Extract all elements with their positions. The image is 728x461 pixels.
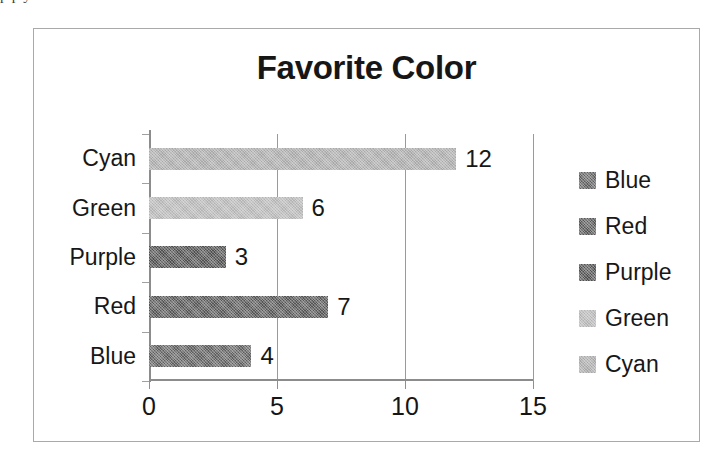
x-tick-mark-0	[149, 381, 150, 389]
chart-legend: BlueRedPurpleGreenCyan	[579, 157, 699, 387]
category-label-blue: Blue	[16, 343, 136, 370]
bar-value-label-green: 6	[312, 194, 325, 222]
legend-item-purple[interactable]: Purple	[579, 249, 699, 295]
x-tick-mark-10	[405, 381, 406, 389]
y-tick-4	[142, 332, 149, 333]
bar-value-label-blue: 4	[260, 342, 273, 370]
bar-row-blue: Blue4	[149, 332, 533, 381]
legend-label-red: Red	[605, 213, 647, 240]
x-tick-label-10: 10	[391, 392, 419, 421]
bar-cyan[interactable]: 12	[149, 148, 456, 170]
x-tick-label-0: 0	[142, 392, 156, 421]
plot-area: Cyan12Green6Purple3Red7Blue4 051015	[149, 134, 533, 381]
y-tick-3	[142, 282, 149, 283]
x-tick-label-15: 15	[519, 392, 547, 421]
x-tick-label-5: 5	[270, 392, 284, 421]
legend-label-cyan: Cyan	[605, 351, 659, 378]
y-tick-5	[142, 381, 149, 382]
legend-item-red[interactable]: Red	[579, 203, 699, 249]
legend-item-cyan[interactable]: Cyan	[579, 341, 699, 387]
legend-label-blue: Blue	[605, 167, 651, 194]
bar-purple[interactable]: 3	[149, 246, 226, 268]
bar-value-label-purple: 3	[235, 243, 248, 271]
bar-row-cyan: Cyan12	[149, 134, 533, 183]
bar-row-red: Red7	[149, 282, 533, 331]
x-tick-mark-5	[277, 381, 278, 389]
bar-green[interactable]: 6	[149, 197, 303, 219]
legend-label-green: Green	[605, 305, 669, 332]
category-label-cyan: Cyan	[16, 145, 136, 172]
x-tick-mark-15	[533, 381, 534, 389]
legend-item-green[interactable]: Green	[579, 295, 699, 341]
bar-red[interactable]: 7	[149, 296, 328, 318]
legend-swatch-green	[579, 310, 596, 327]
y-tick-0	[142, 134, 149, 135]
category-label-green: Green	[16, 195, 136, 222]
y-tick-1	[142, 183, 149, 184]
legend-swatch-red	[579, 218, 596, 235]
bar-row-green: Green6	[149, 183, 533, 232]
category-label-purple: Purple	[16, 244, 136, 271]
bar-row-purple: Purple3	[149, 233, 533, 282]
legend-item-blue[interactable]: Blue	[579, 157, 699, 203]
bar-value-label-cyan: 12	[465, 145, 492, 173]
category-label-red: Red	[16, 293, 136, 320]
gridline-15	[533, 134, 534, 381]
y-tick-2	[142, 233, 149, 234]
legend-swatch-blue	[579, 172, 596, 189]
chart-title: Favorite Color	[34, 49, 699, 87]
chart-frame: Favorite Color Cyan12Green6Purple3Red7Bl…	[33, 28, 700, 442]
bar-value-label-red: 7	[337, 293, 350, 321]
bar-blue[interactable]: 4	[149, 345, 251, 367]
legend-swatch-purple	[579, 264, 596, 281]
cut-off-text-above: p p y	[0, 0, 728, 3]
legend-label-purple: Purple	[605, 259, 671, 286]
legend-swatch-cyan	[579, 356, 596, 373]
